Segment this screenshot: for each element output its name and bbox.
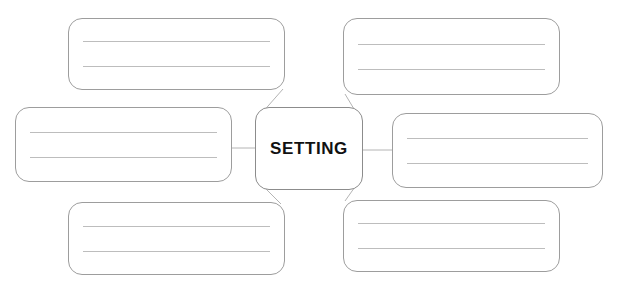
writing-line[interactable] <box>358 248 545 249</box>
writing-line[interactable] <box>83 41 270 42</box>
writing-line[interactable] <box>30 132 217 133</box>
detail-box-middle-left[interactable] <box>15 107 232 182</box>
center-node-label: SETTING <box>270 139 348 159</box>
writing-line[interactable] <box>407 138 588 139</box>
writing-line[interactable] <box>83 226 270 227</box>
writing-line[interactable] <box>358 44 545 45</box>
writing-lines-bottom-left <box>69 226 284 252</box>
writing-line[interactable] <box>358 223 545 224</box>
detail-box-middle-right[interactable] <box>392 113 603 188</box>
writing-lines-middle-left <box>16 132 231 158</box>
center-node-setting[interactable]: SETTING <box>255 107 363 190</box>
writing-line[interactable] <box>358 69 545 70</box>
detail-box-top-right[interactable] <box>343 18 560 95</box>
writing-line[interactable] <box>30 157 217 158</box>
writing-line[interactable] <box>83 251 270 252</box>
writing-line[interactable] <box>407 163 588 164</box>
writing-line[interactable] <box>83 66 270 67</box>
writing-lines-bottom-right <box>344 223 559 249</box>
detail-box-top-left[interactable] <box>68 18 285 90</box>
detail-box-bottom-left[interactable] <box>68 202 285 275</box>
graphic-organizer-canvas: SETTING <box>0 0 618 294</box>
writing-lines-top-left <box>69 41 284 67</box>
detail-box-bottom-right[interactable] <box>343 200 560 272</box>
writing-lines-top-right <box>344 44 559 70</box>
writing-lines-middle-right <box>393 138 602 164</box>
